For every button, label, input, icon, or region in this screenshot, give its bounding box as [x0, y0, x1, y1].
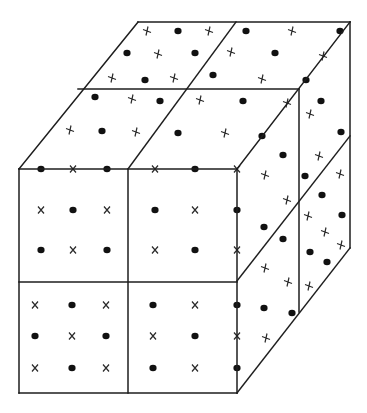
top-dot-symbol: [239, 98, 246, 104]
front-dot-symbol: [191, 333, 198, 339]
right-dot-symbol: [288, 310, 295, 316]
top-dot-symbol: [123, 50, 130, 56]
front-dot-symbol: [191, 247, 198, 253]
cube-faces: [19, 22, 350, 393]
front-dot-symbol: [149, 302, 156, 308]
front-dot-symbol: [68, 302, 75, 308]
right-dot-symbol: [301, 173, 308, 179]
front-dot-symbol: [37, 247, 44, 253]
right-dot-symbol: [306, 249, 313, 255]
top-dot-symbol: [91, 94, 98, 100]
front-dot-symbol: [149, 365, 156, 371]
right-dot-symbol: [260, 305, 267, 311]
front-dot-symbol: [102, 333, 109, 339]
top-dot-symbol: [209, 72, 216, 78]
top-dot-symbol: [174, 28, 181, 34]
top-dot-symbol: [156, 98, 163, 104]
right-dot-symbol: [338, 212, 345, 218]
front-dot-symbol: [69, 207, 76, 213]
front-dot-symbol: [151, 207, 158, 213]
top-dot-symbol: [174, 130, 181, 136]
right-dot-symbol: [318, 192, 325, 198]
front-dot-symbol: [68, 365, 75, 371]
right-dot-symbol: [279, 152, 286, 158]
top-dot-symbol: [191, 50, 198, 56]
cube-diagram: [0, 0, 367, 413]
right-dot-symbol: [323, 259, 330, 265]
front-dot-symbol: [103, 247, 110, 253]
front-dot-symbol: [31, 333, 38, 339]
top-dot-symbol: [242, 28, 249, 34]
right-dot-symbol: [279, 236, 286, 242]
top-dot-symbol: [271, 50, 278, 56]
top-dot-symbol: [98, 128, 105, 134]
right-dot-symbol: [337, 129, 344, 135]
right-dot-symbol: [317, 98, 324, 104]
top-dot-symbol: [141, 77, 148, 83]
right-dot-symbol: [260, 224, 267, 230]
